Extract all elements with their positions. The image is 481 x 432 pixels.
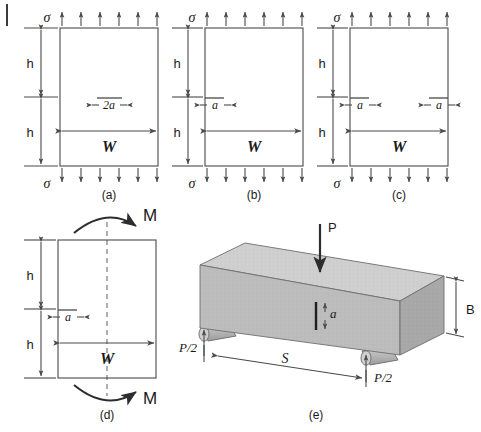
panel-b-h-lower-label: h bbox=[173, 125, 180, 140]
figure-canvas: σ σ h h W 2a (a) σ σ h h W a (b) σ σ h h… bbox=[0, 0, 481, 432]
panel-a-h-upper-label: h bbox=[26, 56, 33, 71]
panel-d-crack-label: a bbox=[65, 310, 71, 324]
panel-c-stress-top-label: σ bbox=[334, 10, 342, 25]
panel-e-crack-label: a bbox=[330, 306, 337, 321]
panel-e-load-label: P bbox=[328, 220, 337, 235]
figure-cracked-specimens: σ σ h h W 2a (a) σ σ h h W a (b) σ σ h h… bbox=[0, 0, 481, 432]
panel-a-top-stress-arrows bbox=[62, 12, 157, 26]
panel-a-stress-bottom-label: σ bbox=[44, 176, 52, 191]
panel-d-moment-bottom-label: M bbox=[143, 389, 157, 408]
panel-e-reaction-right-label: P/2 bbox=[373, 370, 393, 385]
panel-b bbox=[172, 12, 303, 182]
panel-a-crack-label: 2a bbox=[103, 98, 115, 112]
panel-d-moment-arrow-top bbox=[74, 217, 136, 233]
panel-c-crack-left-label: a bbox=[357, 98, 363, 112]
panel-d-h-upper-label: h bbox=[26, 268, 33, 283]
panel-e-span-label: S bbox=[282, 351, 289, 366]
panel-b-bottom-stress-arrows bbox=[207, 168, 302, 182]
panel-c-h-upper-label: h bbox=[318, 56, 325, 71]
panel-c-crack-right-label: a bbox=[436, 98, 442, 112]
panel-e-caption: (e) bbox=[309, 408, 324, 422]
panel-b-caption: (b) bbox=[247, 188, 262, 202]
panel-c-w-label: W bbox=[392, 138, 408, 155]
panel-c bbox=[317, 12, 455, 182]
panel-b-h-upper-label: h bbox=[173, 56, 180, 71]
panel-b-stress-bottom-label: σ bbox=[189, 176, 197, 191]
panel-d-w-label: W bbox=[100, 350, 116, 367]
panel-d-caption: (d) bbox=[100, 408, 115, 422]
panel-a-w-label: W bbox=[102, 138, 118, 155]
panel-d-moment-arrow-bottom bbox=[74, 385, 136, 401]
panel-a bbox=[24, 12, 158, 182]
panel-c-stress-bottom-label: σ bbox=[334, 176, 342, 191]
panel-a-bottom-stress-arrows bbox=[62, 168, 157, 182]
panel-e-span-dim bbox=[218, 356, 362, 378]
panel-e-reaction-left-label: P/2 bbox=[178, 340, 198, 355]
panel-c-caption: (c) bbox=[392, 188, 406, 202]
page-margin-rule bbox=[6, 4, 8, 26]
panel-d-h-lower-label: h bbox=[26, 337, 33, 352]
panel-b-crack-label: a bbox=[212, 98, 218, 112]
panel-a-h-lower-label: h bbox=[26, 125, 33, 140]
panel-b-w-label: W bbox=[247, 138, 263, 155]
panel-c-h-lower-label: h bbox=[318, 125, 325, 140]
panel-a-caption: (a) bbox=[102, 188, 117, 202]
panel-e-thickness-label: B bbox=[466, 302, 475, 317]
panel-d-moment-top-label: M bbox=[143, 206, 157, 225]
panel-d bbox=[24, 217, 156, 400]
panel-b-stress-top-label: σ bbox=[189, 10, 197, 25]
panel-c-bottom-stress-arrows bbox=[352, 168, 447, 182]
panel-c-top-stress-arrows bbox=[352, 12, 447, 26]
panel-b-top-stress-arrows bbox=[207, 12, 302, 26]
panel-a-stress-top-label: σ bbox=[44, 10, 52, 25]
